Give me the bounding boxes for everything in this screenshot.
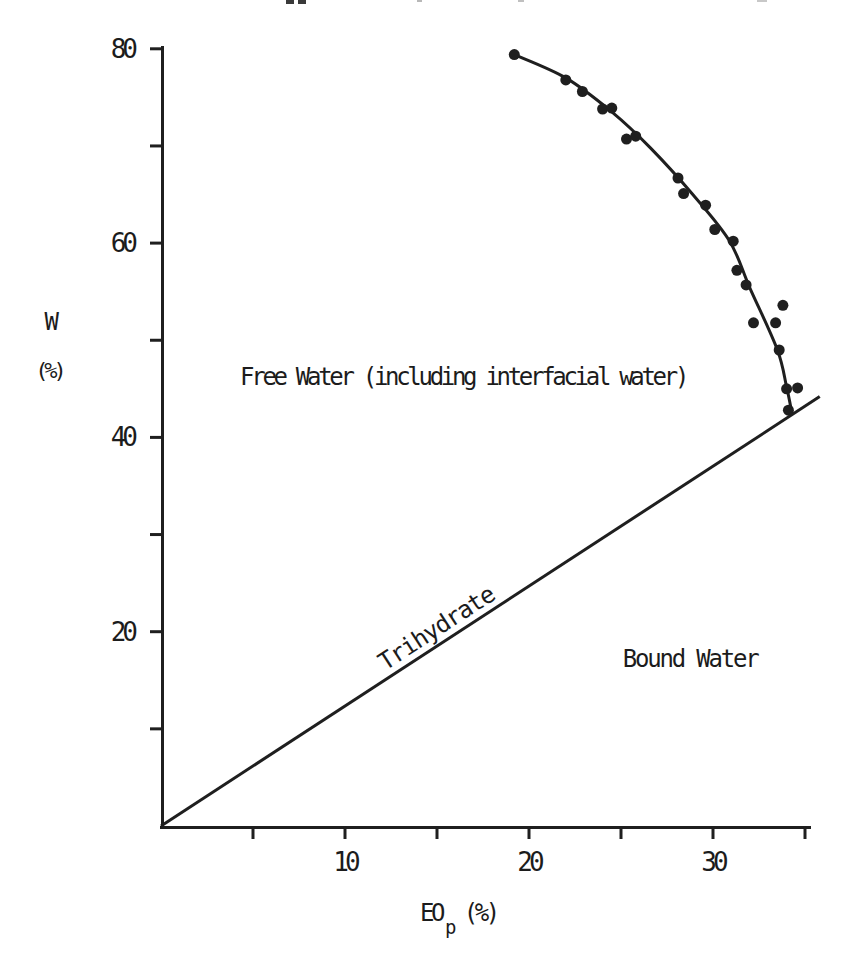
data-point (792, 382, 803, 393)
x-axis-title-subscript: p (445, 916, 456, 938)
data-point (741, 279, 752, 290)
data-point (783, 405, 794, 416)
data-point (781, 383, 792, 394)
plot-content (161, 49, 820, 826)
y-axis-title: W (45, 308, 60, 336)
data-point (577, 86, 588, 97)
y-tick-label: 40 (111, 422, 137, 452)
x-axis-title: EOp(%) (420, 899, 497, 938)
y-tick-label: 20 (111, 617, 137, 647)
data-point (606, 103, 617, 114)
annotation-trihydrate: Trihydrate (373, 580, 500, 676)
y-tick-label: 60 (111, 228, 137, 258)
x-axis-title-base: EO (420, 899, 445, 927)
data-point (777, 300, 788, 311)
data-point (630, 131, 641, 142)
x-axis-title-unit: (%) (464, 899, 497, 927)
scan-artifacts (286, 0, 767, 4)
scatter-chart: 20406080102030 Free Water (including int… (0, 0, 849, 965)
y-axis-unit: (%) (35, 358, 63, 383)
y-tick-label: 80 (111, 34, 137, 64)
data-point (748, 317, 759, 328)
data-point (731, 265, 742, 276)
annotation-free-water-including-interfacial-water: Free Water (including interfacial water) (240, 363, 686, 391)
x-tick-label: 20 (517, 847, 543, 877)
fitted-curve (514, 55, 792, 415)
data-point (673, 173, 684, 184)
axes: 20406080102030 (111, 34, 811, 877)
data-point (728, 236, 739, 247)
data-point (678, 188, 689, 199)
data-point (700, 200, 711, 211)
data-point (560, 74, 571, 85)
data-point (770, 317, 781, 328)
annotation-bound-water: Bound Water (623, 645, 759, 673)
trihydrate-boundary-line (161, 397, 820, 826)
figure-page: 20406080102030 Free Water (including int… (0, 0, 849, 965)
data-point (774, 345, 785, 356)
x-tick-label: 30 (701, 847, 727, 877)
annotations: Free Water (including interfacial water)… (240, 363, 759, 676)
data-point (509, 49, 520, 60)
x-tick-label: 10 (333, 847, 359, 877)
data-point (709, 224, 720, 235)
